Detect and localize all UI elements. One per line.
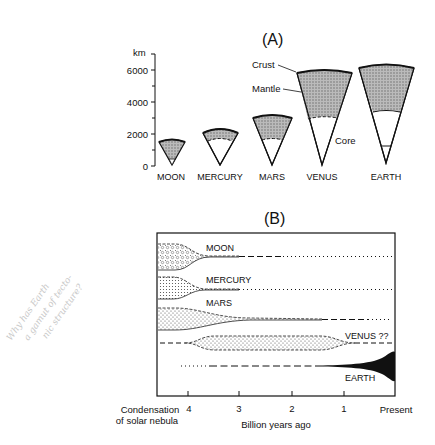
moon-band: MOON <box>158 243 392 270</box>
mantle-label: Mantle <box>252 83 281 94</box>
core-label: Core <box>335 135 356 146</box>
mercury-wedge <box>203 129 238 165</box>
planet-label-mars: MARS <box>259 172 285 182</box>
x-axis: 4 3 2 1 Present Condensation of solar ne… <box>116 391 413 430</box>
crust-label: Crust <box>252 59 275 70</box>
panel-a-title: (A) <box>262 31 283 48</box>
y-tick-4000: 4000 <box>127 97 148 108</box>
earth-wedge <box>359 65 414 164</box>
venus-band: VENUS ?? <box>160 331 395 350</box>
planet-label-venus: VENUS <box>306 172 337 182</box>
venus-series-label: VENUS ?? <box>345 331 389 341</box>
mars-wedge <box>253 115 292 165</box>
mercury-band: MERCURY <box>158 275 392 299</box>
x-axis-title: Billion years ago <box>241 419 311 430</box>
planet-label-moon: MOON <box>157 172 185 182</box>
venus-wedge <box>297 70 352 165</box>
planet-label-mercury: MERCURY <box>197 172 242 182</box>
x-tick-present: Present <box>380 404 413 415</box>
earth-band: EARTH <box>181 352 395 383</box>
y-axis-unit: km <box>133 47 146 58</box>
panel-a: (A) km 6000 4000 2000 0 <box>127 31 414 182</box>
figure-canvas: (A) km 6000 4000 2000 0 <box>0 0 435 445</box>
mercury-series-label: MERCURY <box>206 275 251 285</box>
mars-band: MARS <box>158 298 392 330</box>
planet-label-earth: EARTH <box>371 172 401 182</box>
y-axis: km 6000 4000 2000 0 <box>127 47 155 172</box>
mars-series-label: MARS <box>206 298 232 308</box>
x-tick-4: 4 <box>186 403 191 414</box>
handwritten-annotation: Why has Earth a gamut of tecto- nic stru… <box>4 265 86 359</box>
moon-series-label: MOON <box>206 243 234 253</box>
x-tick-2: 2 <box>289 403 294 414</box>
x-left-label-line1: Condensation <box>121 404 180 415</box>
y-tick-6000: 6000 <box>127 65 148 76</box>
x-left-label-line2: of solar nebula <box>116 415 179 426</box>
moon-wedge <box>159 140 185 166</box>
x-tick-1: 1 <box>341 403 346 414</box>
panel-b-title: (B) <box>264 210 285 227</box>
panel-b: (B) 4 3 2 1 Present Condensation of sola… <box>116 210 413 430</box>
earth-series-label: EARTH <box>345 373 375 383</box>
x-tick-3: 3 <box>236 403 241 414</box>
y-tick-2000: 2000 <box>127 129 148 140</box>
y-tick-0: 0 <box>143 161 148 172</box>
